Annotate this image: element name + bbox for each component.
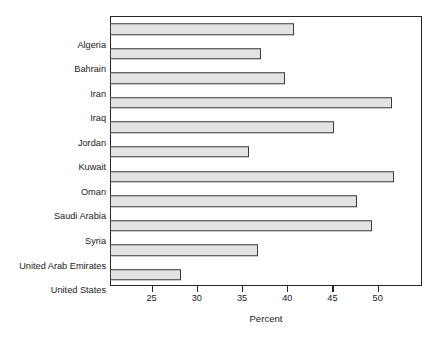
category-label: Saudi Arabia [0, 212, 111, 221]
x-tick-label: 40 [282, 294, 292, 303]
bar [110, 244, 258, 256]
x-tick-mark [332, 286, 333, 292]
x-tick-label: 25 [146, 294, 156, 303]
bar-band [111, 262, 421, 287]
category-label: Oman [0, 188, 111, 197]
category-label: Iraq [0, 114, 111, 123]
bar-band [111, 213, 421, 238]
bar [110, 195, 357, 207]
bar-chart: AlgeriaBahrainIranIraqJordanKuwaitOmanSa… [0, 0, 438, 341]
x-axis: 253035404550 [110, 286, 422, 310]
category-label: Syria [0, 237, 111, 246]
bar-band [111, 189, 421, 214]
bar [110, 171, 394, 183]
bar-band [111, 115, 421, 140]
x-tick-mark [152, 286, 153, 292]
x-tick-label: 45 [327, 294, 337, 303]
bar-band [111, 238, 421, 263]
x-tick-mark [242, 286, 243, 292]
category-label: United States [0, 286, 111, 295]
x-axis-title: Percent [110, 314, 422, 324]
bar [110, 48, 261, 60]
bar-band [111, 17, 421, 42]
bar [110, 220, 372, 232]
x-tick-mark [378, 286, 379, 292]
bar-band [111, 164, 421, 189]
bar-band [111, 140, 421, 165]
category-label: United Arab Emirates [0, 262, 111, 271]
bar [110, 24, 294, 36]
bar-band [111, 66, 421, 91]
category-axis-labels: AlgeriaBahrainIranIraqJordanKuwaitOmanSa… [0, 33, 111, 303]
category-label: Bahrain [0, 65, 111, 74]
category-label: Algeria [0, 41, 111, 50]
plot-area: AlgeriaBahrainIranIraqJordanKuwaitOmanSa… [110, 16, 422, 286]
x-tick-label: 50 [373, 294, 383, 303]
bar-band [111, 91, 421, 116]
x-tick-mark [287, 286, 288, 292]
x-tick-label: 35 [237, 294, 247, 303]
bar [110, 269, 181, 281]
category-label: Jordan [0, 139, 111, 148]
x-tick-label: 30 [192, 294, 202, 303]
bar [110, 97, 392, 109]
bar [110, 73, 285, 85]
bar [110, 122, 334, 134]
bar-band [111, 42, 421, 67]
x-tick-mark [197, 286, 198, 292]
category-label: Kuwait [0, 163, 111, 172]
bar [110, 146, 249, 158]
category-label: Iran [0, 90, 111, 99]
